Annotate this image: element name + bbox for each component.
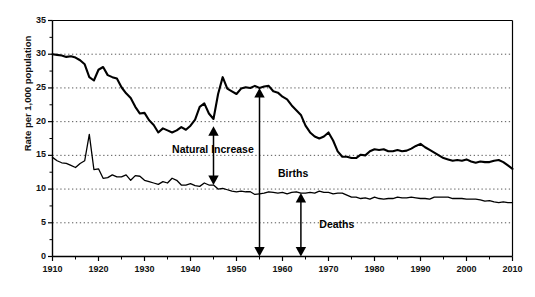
- y-tick-label-30: 30: [24, 48, 46, 58]
- annotation-arrow-deaths: [296, 193, 306, 256]
- arrow-head-up: [254, 88, 264, 98]
- y-tick-label-15: 15: [24, 149, 46, 159]
- annotation-label-deaths: Deaths: [319, 218, 354, 230]
- annotation-label-births: Births: [278, 167, 308, 179]
- x-tick-label-1920: 1920: [79, 264, 119, 274]
- x-tick-label-1950: 1950: [217, 264, 257, 274]
- arrow-head-up: [296, 193, 306, 203]
- y-tick-label-35: 35: [24, 15, 46, 25]
- series-line-births: [53, 54, 513, 169]
- y-tick-label-10: 10: [24, 183, 46, 193]
- birth-death-rate-chart: Rate per 1,000 population 05101520253035…: [0, 0, 535, 297]
- annotation-label-natural-increase: Natural Increase: [172, 143, 254, 155]
- arrow-head-down: [208, 176, 218, 186]
- x-tick-label-2010: 2010: [493, 264, 533, 274]
- x-tick-label-1940: 1940: [171, 264, 211, 274]
- y-tick-label-25: 25: [24, 82, 46, 92]
- y-tick-label-5: 5: [24, 217, 46, 227]
- y-tick-label-0: 0: [24, 251, 46, 261]
- x-tick-label-1960: 1960: [263, 264, 303, 274]
- x-tick-label-1910: 1910: [33, 264, 73, 274]
- plot-area: [0, 0, 535, 297]
- x-tick-label-2000: 2000: [447, 264, 487, 274]
- y-tick-label-20: 20: [24, 116, 46, 126]
- arrow-head-up: [208, 126, 218, 136]
- annotation-arrow-births: [254, 88, 264, 257]
- x-tick-label-1980: 1980: [355, 264, 395, 274]
- x-tick-label-1930: 1930: [125, 264, 165, 274]
- x-tick-label-1990: 1990: [401, 264, 441, 274]
- arrow-head-down: [254, 247, 264, 257]
- x-tick-label-1970: 1970: [309, 264, 349, 274]
- arrow-head-down: [296, 247, 306, 257]
